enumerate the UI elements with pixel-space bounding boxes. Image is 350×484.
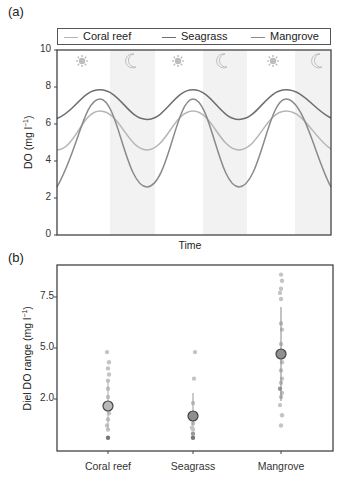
y-axis-title-sup: −1 — [21, 310, 28, 318]
x-category-label: Coral reef — [68, 460, 148, 472]
mean-marker-seagrass — [188, 411, 198, 421]
mean-marker-coral-reef — [103, 401, 113, 411]
y-tick-label-b: 7.5 — [40, 290, 54, 301]
y-axis-title-close: ) — [21, 306, 33, 310]
mean-marker-mangrove — [276, 349, 286, 359]
panel-b-plot — [0, 0, 350, 484]
y-axis-title-b: Diel DO range (mg l−1) — [21, 288, 34, 428]
x-category-label: Mangrove — [241, 460, 321, 472]
y-axis-title-text: Diel DO range (mg l — [21, 318, 33, 411]
x-category-label: Seagrass — [153, 460, 233, 472]
y-tick-label-b: 2.0 — [40, 392, 54, 403]
y-tick-label-b: 5.0 — [40, 341, 54, 352]
